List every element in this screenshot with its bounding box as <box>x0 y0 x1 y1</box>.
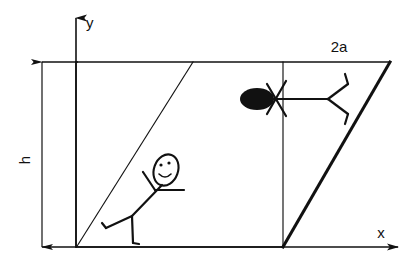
horizontal-figure-foot-upper <box>345 74 348 84</box>
horizontal-figure-leg-lower <box>328 99 348 114</box>
x-axis-label: x <box>377 224 385 241</box>
leaning-figure-eye-right <box>167 161 170 164</box>
figure-root: y x h 2a <box>0 0 417 266</box>
horizontal-figure-foot-lower <box>345 114 348 124</box>
leaning-figure-leg-front <box>132 216 133 243</box>
height-dimension-label: h <box>16 156 33 164</box>
leaning-figure-eye-left <box>159 163 162 166</box>
parallelogram-right-edge <box>283 62 390 247</box>
height-dimension <box>42 62 78 247</box>
horizontal-figure-head <box>240 88 274 110</box>
leaning-stick-figure <box>102 151 184 244</box>
horizontal-figure-leg-upper <box>328 84 348 99</box>
leaning-figure-foot-back <box>102 223 106 228</box>
interior-diagonal-line <box>77 62 194 247</box>
leaning-figure-foot-front <box>133 243 139 244</box>
leaning-figure-leg-back <box>106 216 132 228</box>
width-dimension-label: 2a <box>331 38 348 55</box>
leaning-figure-head <box>149 151 182 189</box>
y-axis-label: y <box>86 14 94 31</box>
diagram-canvas: y x h 2a <box>0 0 417 266</box>
horizontal-stick-figure <box>240 74 348 124</box>
